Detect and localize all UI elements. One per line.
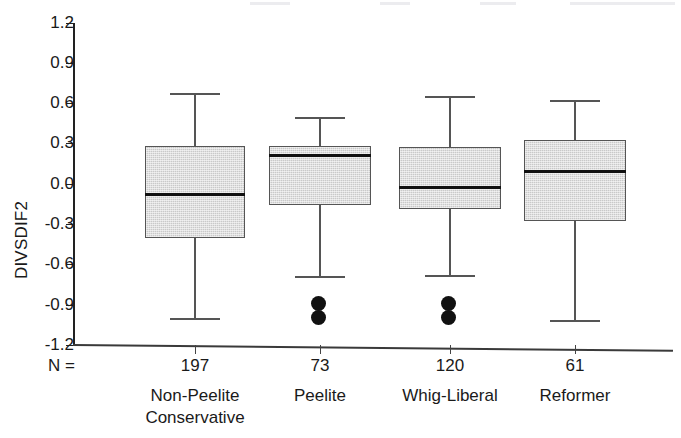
x-tick-mark (195, 345, 196, 354)
y-tick-group: 1.2 (0, 23, 74, 24)
y-tick-group: -0.9 (0, 305, 74, 306)
outlier-point (441, 296, 456, 311)
y-tick-label: 1.2 (16, 14, 74, 31)
y-tick-label: 0.6 (16, 94, 74, 111)
whisker-lower (574, 221, 576, 320)
y-tick-group: 0.3 (0, 143, 74, 144)
y-tick-label: -0.6 (16, 255, 74, 272)
outlier-point (441, 310, 456, 325)
x-tick-mark (320, 345, 321, 354)
box-plot-figure: DIVSDIF2 1.2 0.9 0.6 0.3 0.0 -0.3 -0.6 -… (0, 0, 681, 438)
whisker-cap-lower (550, 320, 600, 322)
y-tick-label: -0.3 (16, 215, 74, 232)
whisker-upper (319, 117, 321, 146)
n-count-reformer: 61 (515, 356, 635, 376)
scan-artifact (250, 2, 290, 5)
y-tick-label: 0.9 (16, 54, 74, 71)
scan-artifact (480, 2, 516, 5)
scan-artifact (570, 2, 675, 5)
x-tick-mark (450, 345, 451, 354)
whisker-upper (449, 96, 451, 147)
n-equals-label: N = (48, 356, 75, 376)
y-tick-label: -1.2 (16, 336, 74, 353)
outlier-point (311, 296, 326, 311)
y-tick-group: 0.6 (0, 103, 74, 104)
box-iqr (524, 140, 626, 221)
n-count-whig-liberal: 120 (390, 356, 510, 376)
whisker-upper (574, 100, 576, 140)
whisker-cap-lower (170, 318, 220, 320)
y-tick-group: -0.3 (0, 224, 74, 225)
y-tick-group: 0.0 (0, 184, 74, 185)
whisker-lower (319, 205, 321, 276)
y-tick-group: -0.6 (0, 264, 74, 265)
whisker-lower (194, 238, 196, 318)
n-count-peelite: 73 (260, 356, 380, 376)
y-tick-label: 0.0 (16, 175, 74, 192)
y-axis-title: DIVSDIF2 (12, 180, 32, 300)
y-tick-label: -0.9 (16, 296, 74, 313)
y-tick-group: 0.9 (0, 63, 74, 64)
y-tick-label: 0.3 (16, 134, 74, 151)
box-iqr (145, 146, 245, 238)
x-tick-mark (575, 345, 576, 354)
median-line (145, 193, 245, 196)
whisker-cap-lower (295, 276, 345, 278)
box-iqr (399, 147, 501, 209)
category-label-reformer: Reformer (490, 385, 660, 407)
whisker-cap-lower (425, 275, 475, 277)
median-line (269, 154, 371, 157)
x-axis-line (73, 344, 673, 352)
median-line (524, 170, 626, 173)
outlier-point (311, 310, 326, 325)
scan-artifact (380, 2, 410, 5)
median-line (399, 186, 501, 189)
y-tick-group: -1.2 (0, 345, 74, 346)
n-count-non-peelite-conservative: 197 (135, 356, 255, 376)
whisker-upper (194, 93, 196, 146)
whisker-lower (449, 209, 451, 275)
